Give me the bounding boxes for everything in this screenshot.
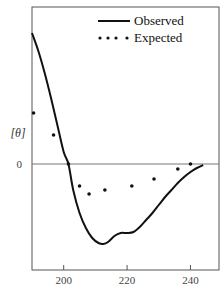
series-expected xyxy=(32,111,192,196)
y-axis-label: [θ] xyxy=(10,126,26,140)
expected-point xyxy=(103,188,107,192)
y-tick-label-zero: 0 xyxy=(17,158,23,170)
expected-point xyxy=(189,162,193,166)
legend-observed-label: Observed xyxy=(134,13,184,28)
series-observed xyxy=(32,33,203,244)
expected-point xyxy=(78,184,82,188)
observed-line xyxy=(32,33,203,244)
legend-expected-dot xyxy=(125,36,128,39)
expected-point xyxy=(176,167,180,171)
expected-point xyxy=(130,184,134,188)
cd-spectrum-chart: 0 [θ] 200220240 Observed Expected xyxy=(0,0,223,288)
expected-point xyxy=(32,111,36,115)
expected-point xyxy=(87,192,91,196)
expected-point xyxy=(52,133,56,137)
x-tick-label: 200 xyxy=(55,274,72,286)
expected-point xyxy=(152,177,156,181)
x-tick-label: 240 xyxy=(182,274,199,286)
legend-expected-label: Expected xyxy=(134,30,183,45)
expected-point xyxy=(67,162,71,166)
x-axis-ticks: 200220240 xyxy=(55,265,199,286)
x-tick-label: 220 xyxy=(119,274,136,286)
legend: Observed Expected xyxy=(98,13,184,45)
legend-expected-dot xyxy=(106,36,109,39)
legend-expected-dot xyxy=(98,36,101,39)
legend-expected-dot xyxy=(114,36,117,39)
